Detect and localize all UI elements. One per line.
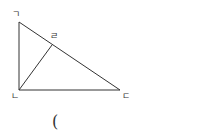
vertex-label-right-angle: ㄴ <box>11 92 19 101</box>
triangle-diagram <box>0 0 200 137</box>
vertex-label-top: ㄱ <box>12 10 20 19</box>
vertex-label-foot: ㄹ <box>50 32 58 41</box>
vertex-label-right: ㄷ <box>122 92 130 101</box>
segment-giyeok-digeut <box>19 22 120 90</box>
caption-open-paren: ( <box>52 114 58 130</box>
segment-nieun-rieul-altitude <box>19 45 52 90</box>
